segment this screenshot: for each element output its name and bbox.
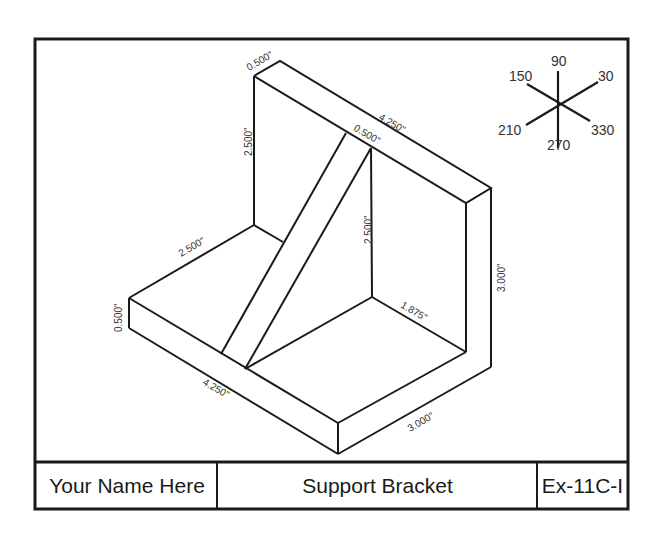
axis-label-150: 150 <box>509 68 533 84</box>
axis-label-330: 330 <box>591 122 615 138</box>
dim-rib-thickness: 0.500" <box>352 122 383 146</box>
dim-back-top-thickness: 0.500" <box>245 49 276 73</box>
title-block-exercise-id: Ex-11C-I <box>538 464 627 508</box>
dim-back-height: 2.500" <box>243 127 254 156</box>
axis-label-30: 30 <box>598 68 614 84</box>
dim-rib-height: 2.500" <box>363 215 374 244</box>
axis-label-90: 90 <box>551 53 567 69</box>
dim-overall-height: 3.000" <box>496 263 507 292</box>
dim-back-top-length: 4.250" <box>377 111 408 135</box>
drawing-border <box>35 39 628 509</box>
title-block-name: Your Name Here <box>37 464 217 508</box>
dim-base-thickness: 0.500" <box>113 303 124 332</box>
axis-label-210: 210 <box>498 122 522 138</box>
axis-label-270: 270 <box>547 137 571 153</box>
title-block-part-title: Support Bracket <box>218 464 537 508</box>
isometric-drawing: 90 30 150 210 270 330 0.500" 4.250" 0.50… <box>0 0 659 535</box>
dim-inner-base-depth: 1.875" <box>399 299 430 323</box>
